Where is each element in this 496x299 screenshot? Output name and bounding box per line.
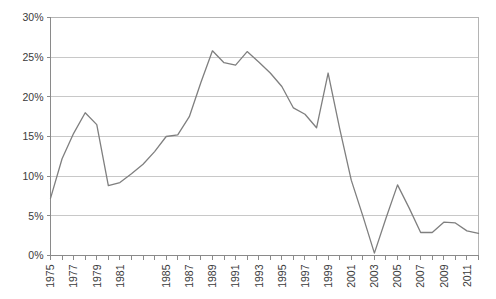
- line-chart: 0%5%10%15%20%25%30% 19751977197919811985…: [0, 0, 496, 299]
- y-axis-tick-labels: 0%5%10%15%20%25%30%: [22, 11, 43, 261]
- x-axis-tick-label: 2009: [438, 264, 450, 288]
- y-axis-tick-label: 5%: [28, 210, 43, 222]
- x-axis-tick-label: 1993: [253, 264, 265, 288]
- x-axis-tick-label: 1985: [160, 264, 172, 288]
- x-axis-tick-label: 2005: [391, 264, 403, 288]
- gridlines-group: [47, 18, 479, 256]
- y-axis-tick-label: 20%: [22, 91, 43, 103]
- x-axis-tick-label: 2003: [368, 264, 380, 288]
- x-axis-tick-label: 1989: [206, 264, 218, 288]
- x-axis-tick-label: 1995: [276, 264, 288, 288]
- x-axis-tick-label: 2001: [345, 264, 357, 288]
- y-axis-tick-label: 15%: [22, 130, 43, 142]
- x-axis-tick-marks: [51, 256, 479, 260]
- x-axis-tick-label: 1979: [91, 264, 103, 288]
- y-axis-tick-label: 10%: [22, 170, 43, 182]
- x-axis-tick-label: 1999: [322, 264, 334, 288]
- x-axis-tick-label: 2007: [414, 264, 426, 288]
- chart-container: 0%5%10%15%20%25%30% 19751977197919811985…: [0, 0, 496, 299]
- y-axis-tick-label: 0%: [28, 249, 43, 261]
- y-axis-tick-label: 25%: [22, 51, 43, 63]
- x-axis-tick-label: 1981: [114, 264, 126, 288]
- x-axis-tick-labels: 1975197719791981198519871989199119931995…: [44, 264, 472, 288]
- x-axis-tick-label: 1991: [229, 264, 241, 288]
- chart-svg: 0%5%10%15%20%25%30% 19751977197919811985…: [0, 0, 496, 299]
- x-axis-tick-label: 1977: [67, 264, 79, 288]
- x-axis-tick-label: 1975: [44, 264, 56, 288]
- y-axis-tick-label: 30%: [22, 11, 43, 23]
- x-axis-tick-label: 1987: [183, 264, 195, 288]
- x-axis-tick-label: 1997: [299, 264, 311, 288]
- x-axis-tick-label: 2011: [461, 264, 473, 287]
- data-series-line: [51, 51, 479, 253]
